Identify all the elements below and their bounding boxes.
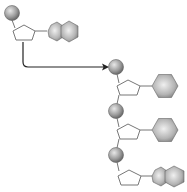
nucleotide-chain-diagram bbox=[0, 0, 187, 192]
purine-base-icon bbox=[48, 21, 78, 42]
phosphate-icon bbox=[109, 148, 124, 163]
free-nucleotide bbox=[5, 6, 79, 43]
sugar-pentagon-icon bbox=[118, 170, 141, 185]
arrow-right-icon bbox=[23, 42, 109, 71]
phosphate-icon bbox=[109, 60, 124, 75]
phosphate-icon bbox=[109, 104, 124, 119]
chain-nucleotide-3 bbox=[109, 148, 185, 188]
sugar-pentagon-icon bbox=[117, 80, 140, 95]
purine-base-icon bbox=[152, 166, 184, 187]
sugar-pentagon-icon bbox=[117, 124, 140, 139]
pyrimidine-base-icon bbox=[152, 119, 178, 142]
sugar-pentagon-icon bbox=[13, 25, 35, 40]
chain-nucleotide-1 bbox=[109, 60, 179, 98]
chain-nucleotide-2 bbox=[109, 104, 179, 142]
phosphate-icon bbox=[5, 6, 20, 21]
pyrimidine-base-icon bbox=[152, 75, 178, 98]
